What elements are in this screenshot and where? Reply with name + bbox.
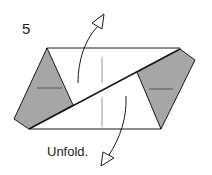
lower-arrowhead-icon <box>101 152 114 166</box>
upper-arrowhead-icon <box>92 14 104 29</box>
instruction-caption: Unfold. <box>47 144 88 159</box>
origami-step-diagram: 5 Unfold. <box>0 0 212 175</box>
fold-illustration <box>0 0 212 175</box>
